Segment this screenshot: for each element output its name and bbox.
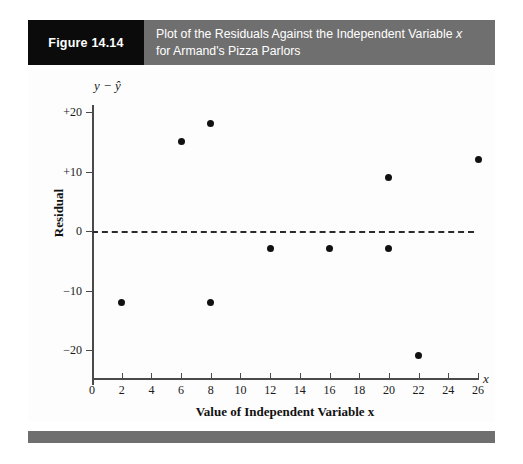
- data-point: [475, 156, 482, 163]
- data-point: [178, 138, 185, 145]
- x-axis-tick-label: 20: [377, 383, 401, 398]
- x-axis-tick-label: 6: [169, 383, 193, 398]
- x-axis-tick-label: 10: [228, 383, 252, 398]
- x-axis-tick-label: 12: [258, 383, 282, 398]
- plot-panel: y − ŷ x Residual Value of Independent Va…: [28, 65, 495, 421]
- data-point: [385, 174, 392, 181]
- y-axis-tick: [86, 350, 93, 351]
- x-axis-tick-label: 14: [288, 383, 312, 398]
- x-axis-tick-label: 4: [139, 383, 163, 398]
- data-point: [267, 245, 274, 252]
- x-axis-tick: [300, 373, 301, 380]
- figure-title-line-1: Plot of the Residuals Against the Indepe…: [156, 26, 483, 43]
- y-axis-tick-label: −20: [42, 343, 82, 358]
- data-point: [385, 245, 392, 252]
- x-axis-tick: [448, 373, 449, 380]
- y-axis-tick-label: +10: [42, 165, 82, 180]
- data-point: [415, 352, 422, 359]
- figure-title-text: Plot of the Residuals Against the Indepe…: [156, 27, 456, 41]
- footer-bar: [28, 431, 495, 443]
- x-axis-tick: [211, 373, 212, 380]
- x-axis-tick-label: 0: [80, 383, 104, 398]
- data-point: [118, 299, 125, 306]
- x-axis-tick: [181, 373, 182, 380]
- figure-title-bar: Plot of the Residuals Against the Indepe…: [144, 20, 495, 65]
- x-axis-tick-label: 16: [318, 383, 342, 398]
- x-axis-tick: [330, 373, 331, 380]
- x-axis-tick: [419, 373, 420, 380]
- figure-page: Figure 14.14 Plot of the Residuals Again…: [0, 0, 523, 464]
- x-axis-tick: [240, 373, 241, 380]
- figure-title-line-2: for Armand's Pizza Parlors: [156, 43, 483, 60]
- x-axis-tick-label: 24: [436, 383, 460, 398]
- figure-header: Figure 14.14 Plot of the Residuals Again…: [28, 20, 495, 65]
- x-axis-tick-label: 2: [110, 383, 134, 398]
- figure-number-tag: Figure 14.14: [28, 20, 144, 65]
- x-axis-line: [92, 378, 478, 380]
- data-point: [326, 245, 333, 252]
- y-axis-title: Residual: [51, 168, 67, 258]
- x-axis-tick: [389, 373, 390, 380]
- x-axis-tick-label: 22: [407, 383, 431, 398]
- figure-title-variable: x: [456, 27, 462, 41]
- x-axis-tick: [359, 373, 360, 380]
- y-axis-tick: [86, 231, 93, 232]
- scatter-plot: y − ŷ x Residual Value of Independent Va…: [28, 65, 495, 421]
- x-axis-tick-label: 26: [466, 383, 490, 398]
- zero-reference-line: [92, 231, 474, 233]
- x-axis-tick: [122, 373, 123, 380]
- data-point: [207, 299, 214, 306]
- y-axis-tick-label: −10: [42, 284, 82, 299]
- x-axis-tick-label: 18: [347, 383, 371, 398]
- y-axis-tick-label: 0: [42, 224, 82, 239]
- x-axis-tick: [478, 373, 479, 380]
- y-axis-tick: [86, 291, 93, 292]
- y-axis-tick: [86, 172, 93, 173]
- x-axis-tick-label: 8: [199, 383, 223, 398]
- y-axis-symbol: y − ŷ: [94, 78, 121, 94]
- y-axis-line: [92, 105, 94, 385]
- x-axis-title: Value of Independent Variable x: [92, 404, 478, 420]
- y-axis-tick-label: +20: [42, 105, 82, 120]
- data-point: [207, 120, 214, 127]
- x-axis-tick: [270, 373, 271, 380]
- x-axis-tick: [151, 373, 152, 380]
- y-axis-tick: [86, 112, 93, 113]
